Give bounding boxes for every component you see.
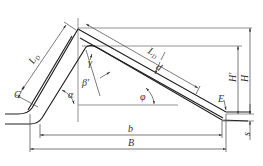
dimension-LD-right [86, 24, 200, 94]
label-C: C [14, 89, 21, 100]
label-B: B [128, 137, 134, 148]
angle-phi [146, 88, 154, 104]
label-E: E [217, 93, 224, 104]
label-alpha: α [68, 89, 74, 100]
technical-diagram: LD LD d C α β' γ φ E H' H [0, 0, 263, 166]
label-LD-right: LD [145, 44, 161, 60]
label-phi: φ [140, 91, 146, 102]
label-s: s [241, 132, 252, 136]
label-H: H [239, 74, 250, 83]
label-gamma: γ [88, 57, 93, 68]
label-beta-prime: β' [81, 77, 90, 88]
section-profile [5, 29, 250, 124]
label-b: b [128, 123, 133, 134]
dimension-E [224, 100, 226, 110]
label-H-prime: H' [227, 72, 238, 83]
